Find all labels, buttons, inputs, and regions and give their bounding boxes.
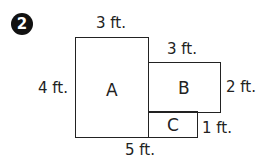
- dim-b-right: 2 ft.: [226, 78, 256, 96]
- label-b: B: [178, 78, 190, 98]
- dim-c-right: 1 ft.: [202, 119, 232, 137]
- dim-bottom: 5 ft.: [125, 141, 155, 159]
- dim-b-top: 3 ft.: [167, 40, 197, 58]
- label-c: C: [167, 115, 179, 135]
- problem-number-badge: 2: [11, 13, 33, 35]
- label-a: A: [106, 80, 118, 100]
- dim-a-top: 3 ft.: [96, 14, 126, 32]
- dim-a-left: 4 ft.: [38, 79, 68, 97]
